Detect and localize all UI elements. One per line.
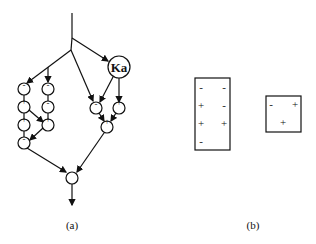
svg-text:+: + — [280, 116, 286, 128]
svg-text:+: + — [198, 99, 204, 111]
svg-text:-: - — [47, 98, 50, 108]
svg-text:+: + — [116, 97, 121, 107]
svg-text:-: - — [199, 81, 203, 93]
svg-text:+: + — [198, 117, 204, 129]
svg-text:-: - — [95, 99, 98, 109]
svg-text:-: - — [222, 99, 226, 111]
svg-text:-: - — [222, 81, 226, 93]
svg-text:+: + — [292, 98, 298, 110]
svg-text:-: - — [47, 80, 50, 90]
svg-text:+: + — [104, 116, 109, 126]
svg-text:-: - — [269, 98, 273, 110]
svg-text:-: - — [199, 135, 203, 147]
svg-text:+: + — [21, 114, 26, 124]
small-box-signs: - + + — [269, 98, 298, 128]
svg-text:+: + — [21, 96, 26, 106]
svg-text:+: + — [221, 117, 227, 129]
tall-box-signs: - - + - + + - — [198, 81, 227, 147]
svg-text:+: + — [45, 114, 50, 124]
diagram-canvas: - + + - - - + - + + Ka (a) - - + - + + -… — [0, 0, 316, 244]
panel-b-boxes — [195, 78, 301, 150]
panel-a-nodes — [18, 56, 130, 184]
svg-text:-: - — [23, 80, 26, 90]
svg-text:-: - — [23, 134, 26, 144]
caption-a: (a) — [66, 219, 79, 232]
ka-label: Ka — [111, 60, 128, 75]
caption-b: (b) — [247, 219, 260, 232]
